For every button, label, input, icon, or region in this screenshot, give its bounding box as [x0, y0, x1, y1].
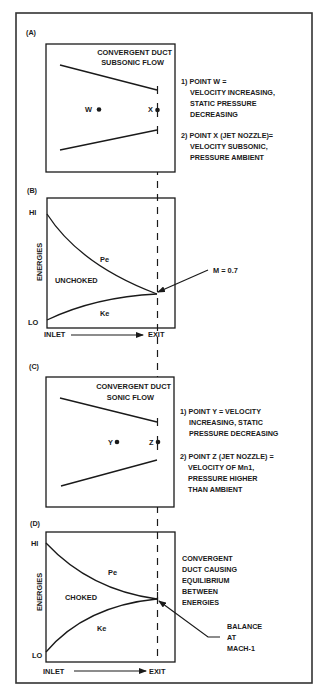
panel-c-note-7: THAN AMBIENT	[188, 485, 243, 494]
pe-label: Pe	[100, 255, 109, 264]
inlet-label: INLET	[43, 667, 65, 676]
y-axis-title: ENERGIES	[35, 573, 44, 611]
point-x-dot	[155, 108, 160, 113]
panel-d-note-5: ENERGIES	[182, 598, 219, 607]
convergent-duct-diagram: (A) CONVERGENT DUCT SUBSONIC FLOW W X 1)…	[0, 0, 322, 691]
panel-c-title-2: SONIC FLOW	[107, 393, 154, 402]
m07-arrow	[158, 270, 208, 292]
pe-curve	[46, 543, 157, 599]
panel-a-label: (A)	[26, 28, 37, 37]
panel-a-note-4: DECREASING	[190, 110, 238, 119]
panel-c-note-2: INCREASING, STATIC	[189, 418, 263, 427]
panel-c-note-5: VELOCITY OF Mn1,	[188, 463, 254, 472]
mach1-callout-3: MACH-1	[227, 644, 255, 653]
y-axis-lo: LO	[32, 651, 43, 660]
exit-label: EXIT	[148, 330, 165, 339]
panel-d-note-3: EQUILIBRIUM	[182, 576, 230, 585]
panel-c-note-6: PRESSURE HIGHER	[188, 474, 258, 483]
point-x-label: X	[148, 105, 153, 114]
panel-d-label: (D)	[30, 519, 41, 528]
unchoked-label: UNCHOKED	[55, 276, 98, 285]
panel-c: (C) CONVERGENT DUCT SONIC FLOW Y Z 1) PO…	[29, 362, 279, 507]
panel-a-title-1: CONVERGENT DUCT	[97, 48, 172, 57]
panel-a-note-7: PRESSURE AMBIENT	[190, 153, 265, 162]
panel-b-label: (B)	[27, 186, 38, 195]
m07-label: M = 0.7	[213, 266, 238, 275]
panel-a-note-2: VELOCITY INCREASING,	[190, 88, 275, 97]
mach1-callout-2: AT	[227, 633, 237, 642]
panel-c-note-1: 1) POINT Y = VELOCITY	[180, 407, 261, 416]
exit-label: EXIT	[149, 667, 166, 676]
point-z-label: Z	[149, 438, 154, 447]
panel-a-note-5: 2) POINT X (JET NOZZLE)=	[181, 131, 273, 140]
panel-b-box	[47, 198, 175, 328]
choked-label: CHOKED	[65, 593, 98, 602]
point-w-dot	[97, 107, 102, 112]
panel-c-label: (C)	[29, 362, 40, 371]
y-axis-hi: HI	[29, 208, 36, 217]
point-y-dot	[115, 440, 120, 445]
point-w-label: W	[85, 105, 92, 114]
y-axis-title: ENERGIES	[35, 243, 44, 281]
panel-c-title-1: CONVERGENT DUCT	[96, 382, 171, 391]
ke-label: Ke	[100, 309, 109, 318]
pe-label: Pe	[108, 568, 117, 577]
point-y-label: Y	[108, 438, 113, 447]
inlet-label: INLET	[44, 330, 66, 339]
panel-a-note-3: STATIC PRESSURE	[190, 99, 257, 108]
panel-a-note-6: VELOCITY SUBSONIC,	[190, 142, 268, 151]
y-axis-lo: LO	[28, 318, 39, 327]
panel-a-note-1: 1) POINT W =	[181, 77, 226, 86]
panel-c-note-3: PRESSURE DECREASING	[189, 429, 279, 438]
panel-d: (D) HI LO ENERGIES Pe Ke CHOKED CONVERGE…	[30, 519, 262, 676]
point-z-dot	[156, 440, 161, 445]
mach1-callout-1: BALANCE	[227, 622, 262, 631]
y-axis-hi: HI	[31, 539, 38, 548]
panel-a-title-2: SUBSONIC FLOW	[101, 58, 164, 67]
ke-label: Ke	[97, 624, 106, 633]
panel-c-note-4: 2) POINT Z (JET NOZZLE) =	[180, 452, 274, 461]
panel-d-note-4: BETWEEN	[182, 587, 218, 596]
panel-d-note-1: CONVERGENT	[182, 554, 233, 563]
panel-d-note-2: DUCT CAUSING	[182, 565, 238, 574]
panel-a: (A) CONVERGENT DUCT SUBSONIC FLOW W X 1)…	[26, 28, 275, 172]
panel-b: (B) HI LO ENERGIES Pe Ke UNCHOKED M = 0.…	[27, 186, 238, 339]
